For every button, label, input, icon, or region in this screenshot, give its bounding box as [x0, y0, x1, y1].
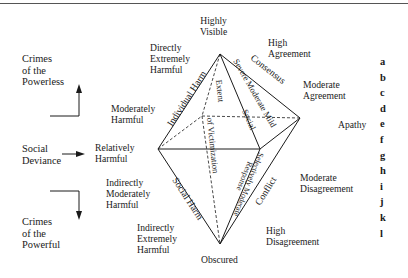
row-letter: k — [380, 210, 386, 226]
label-moderate-disagreement: Moderate Disagreement — [300, 173, 353, 195]
label-obscured: Obscured — [201, 255, 238, 266]
row-letter: e — [380, 116, 386, 132]
row-letter: h — [380, 163, 386, 179]
label-relatively-harmful: Relatively Harmful — [95, 143, 134, 165]
arrow-up-line — [50, 90, 79, 116]
row-letter: c — [380, 85, 386, 101]
label-crimes-of-powerless: Crimes of the Powerless — [22, 53, 64, 88]
label-high-disagreement: High Disagreement — [266, 226, 319, 248]
row-letter: d — [380, 101, 386, 117]
arrow-up-icon — [76, 84, 82, 93]
row-letter: l — [380, 226, 386, 242]
edge-front-right-right — [260, 118, 300, 149]
label-social-deviance: Social Deviance — [22, 143, 61, 166]
row-letter: b — [380, 70, 386, 86]
label-moderate-agreement: Moderate Agreement — [303, 80, 346, 102]
label-individual-harm: Individual Harm — [164, 68, 208, 128]
label-high-agreement: High Agreement — [268, 38, 311, 60]
row-letters: a b c d e f g h i j k l — [380, 54, 386, 241]
label-moderately-harmful: Moderately Harmful — [111, 104, 155, 126]
prism-diagram: Individual Harm Consensus Severe Moderat… — [0, 0, 408, 278]
label-social: Social — [240, 108, 258, 132]
label-of-victimization: of Victimization — [205, 117, 221, 174]
row-letter: j — [380, 194, 386, 210]
label-indirectly-extremely-harmful: Indirectly Extremely Harmful — [137, 223, 177, 255]
arrow-down-icon — [76, 211, 82, 220]
label-crimes-of-powerful: Crimes of the Powerful — [22, 216, 60, 251]
label-apathy: Apathy — [338, 120, 366, 131]
label-indirectly-moderately-harmful: Indirectly Moderately Harmful — [106, 178, 150, 210]
row-letter: g — [380, 148, 386, 164]
label-extent: Extent — [214, 79, 226, 103]
label-social-harm: Social Harm — [170, 175, 206, 222]
row-letter: a — [380, 54, 386, 70]
row-letter: i — [380, 179, 386, 195]
label-highly-visible: Highly Visible — [200, 16, 227, 38]
arrow-down-line — [50, 191, 79, 214]
row-letter: f — [380, 132, 386, 148]
arrow-right-icon — [76, 151, 85, 157]
label-directly-extremely-harmful: Directly Extremely Harmful — [150, 43, 190, 75]
